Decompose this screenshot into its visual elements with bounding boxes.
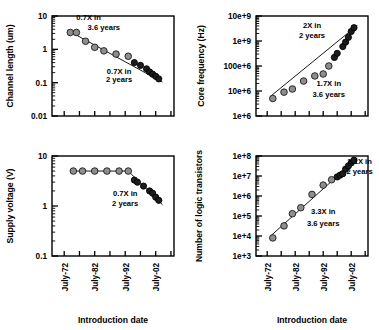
y-tick-label: 1e+4	[233, 232, 252, 241]
data-point	[156, 197, 162, 203]
data-point	[67, 29, 74, 36]
data-point	[91, 168, 98, 175]
data-point	[125, 53, 132, 60]
data-point	[281, 223, 288, 230]
chart-svg-logic-transistors: 1e+81e+71e+61e+51e+41e+3July-72July-82Ju…	[190, 150, 379, 330]
y-tick-label: 1e+7	[233, 172, 252, 181]
x-tick-label: July-82	[292, 263, 301, 292]
chart-logic-transistors: 1e+81e+71e+61e+51e+41e+3July-72July-82Ju…	[190, 150, 379, 330]
data-point	[73, 29, 80, 36]
chart-svg-supply-voltage: 1010.1July-72July-82July-92July-02Introd…	[0, 150, 190, 330]
data-point	[79, 168, 86, 175]
data-point	[91, 44, 98, 51]
data-point	[113, 51, 120, 58]
y-tick-label: 1e+6	[233, 192, 252, 201]
chart-annotation: 2 years	[347, 167, 373, 176]
y-tick-label: 0.1	[36, 252, 48, 261]
x-tick-label: July-02	[152, 263, 161, 292]
data-point	[156, 76, 162, 82]
chart-annotation: 3.6 years	[313, 90, 346, 99]
y-axis-title: Number of logic transistors	[194, 150, 204, 262]
chart-annotation: 2.1X in	[347, 157, 372, 166]
y-tick-label: 0.1	[36, 79, 48, 88]
data-point	[281, 89, 288, 96]
data-point	[351, 25, 357, 31]
chart-annotation: 2 years	[112, 199, 138, 208]
chart-annotation: 0.7X in	[113, 189, 138, 198]
chart-annotation: 3.6 years	[307, 219, 340, 228]
chart-core-frequency: 10e+91e+9100e+610e+61e+6Core frequency (…	[190, 0, 379, 150]
data-point	[334, 50, 340, 56]
chart-annotation: 2 years	[106, 75, 132, 84]
data-point	[300, 78, 307, 85]
y-tick-label: 10e+9	[228, 12, 251, 21]
y-axis-title: Supply voltage (V)	[5, 168, 15, 243]
chart-annotation: 0.7X in	[76, 13, 101, 22]
y-tick-label: 10	[38, 152, 48, 161]
data-point	[70, 168, 77, 175]
x-tick-label: July-92	[320, 263, 329, 292]
chart-svg-core-frequency: 10e+91e+9100e+610e+61e+6Core frequency (…	[190, 0, 379, 150]
y-tick-label: 10e+6	[228, 87, 251, 96]
data-point	[320, 182, 327, 189]
y-tick-label: 1e+9	[233, 37, 252, 46]
data-point	[309, 191, 316, 198]
data-point	[326, 63, 333, 70]
y-tick-label: 1e+6	[233, 112, 252, 121]
y-tick-label: 1e+5	[233, 212, 252, 221]
figure-panel-grid: 1010.10.01Channel length (um)0.7X in3.6 …	[0, 0, 379, 330]
data-point	[82, 38, 89, 45]
y-tick-label: 1e+3	[233, 252, 252, 261]
chart-annotation: 1.7X in	[317, 79, 342, 88]
data-point	[289, 86, 296, 93]
data-point	[101, 48, 108, 55]
data-point	[345, 34, 351, 40]
data-point	[125, 168, 132, 175]
chart-annotation: 2X in	[303, 21, 322, 30]
y-tick-label: 1e+8	[233, 152, 252, 161]
x-tick-label: July-02	[348, 263, 357, 292]
chart-annotation: 3.3X in	[311, 207, 336, 216]
y-tick-label: 1	[42, 202, 47, 211]
x-tick-label: July-72	[61, 263, 70, 292]
chart-annotation: 2 years	[299, 31, 325, 40]
data-point	[137, 62, 143, 68]
chart-annotation: 3.6 years	[88, 23, 121, 32]
x-axis-title: Introduction date	[78, 315, 148, 325]
data-point	[270, 95, 277, 102]
data-point	[289, 210, 296, 217]
y-tick-label: 100e+6	[223, 62, 251, 71]
chart-channel-length: 1010.10.01Channel length (um)0.7X in3.6 …	[0, 0, 190, 150]
data-point	[116, 168, 123, 175]
data-point	[298, 204, 305, 211]
chart-supply-voltage: 1010.1July-72July-82July-92July-02Introd…	[0, 150, 190, 330]
x-tick-label: July-82	[91, 263, 100, 292]
chart-svg-channel-length: 1010.10.01Channel length (um)0.7X in3.6 …	[0, 0, 190, 150]
x-tick-label: July-72	[264, 263, 273, 292]
x-axis-title: Introduction date	[277, 315, 347, 325]
x-tick-label: July-92	[122, 263, 131, 292]
data-point	[134, 179, 140, 185]
data-point	[320, 71, 327, 78]
y-tick-label: 10	[38, 12, 48, 21]
data-point	[270, 235, 277, 242]
y-axis-title: Channel length (um)	[5, 24, 15, 107]
y-tick-label: 1	[42, 45, 47, 54]
data-point	[131, 59, 137, 65]
y-axis-title: Core frequency (Hz)	[196, 25, 206, 107]
data-point	[140, 183, 146, 189]
data-point	[104, 168, 111, 175]
y-tick-label: 0.01	[31, 112, 47, 121]
